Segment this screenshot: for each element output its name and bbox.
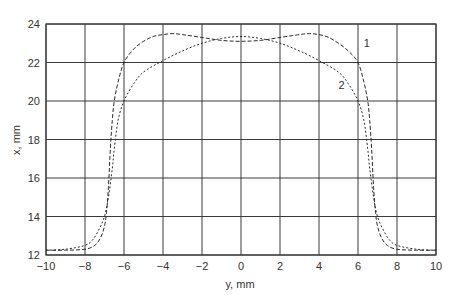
y-tick-label: 14 [28,211,40,223]
x-tick-label: −4 [157,260,170,272]
y-tick-label: 20 [28,95,40,107]
chart: −10−8−6−4−20246810 12141618202224 y, mm … [0,0,458,295]
y-tick-labels: 12141618202224 [28,18,40,261]
y-tick-label: 16 [28,172,40,184]
x-axis-label: y, mm [225,278,254,290]
curve-2-label: 2 [339,79,345,91]
x-tick-label: 4 [316,260,322,272]
y-tick-label: 12 [28,249,40,261]
x-tick-label: 2 [277,260,283,272]
x-tick-label: 0 [238,260,244,272]
y-tick-label: 24 [28,18,40,30]
curve-1-label: 1 [364,37,370,49]
x-tick-label: 6 [355,260,361,272]
y-tick-label: 22 [28,57,40,69]
x-tick-label: 8 [394,260,400,272]
x-tick-labels: −10−8−6−4−20246810 [37,260,442,272]
x-tick-label: −2 [196,260,209,272]
x-tick-label: −8 [79,260,92,272]
y-tick-label: 18 [28,134,40,146]
x-tick-label: 10 [430,260,442,272]
y-axis-label: x, mm [10,125,22,155]
x-tick-label: −6 [118,260,131,272]
grid-lines [46,24,436,255]
x-tick-label: −10 [37,260,56,272]
